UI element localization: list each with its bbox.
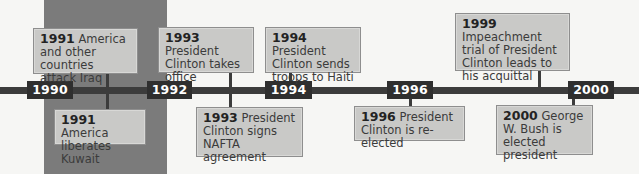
event-year: 1994 [272, 30, 307, 45]
event-box-1994-haiti: 1994 President Clinton sends troops to H… [265, 27, 361, 73]
event-text: President Clinton sends troops to Haiti [272, 44, 354, 84]
event-box-1996-reelected: 1996 President Clinton is re-elected [354, 106, 465, 141]
year-tag-2000: 2000 [568, 81, 614, 99]
event-year: 1991 [61, 112, 96, 127]
event-box-1993-nafta: 1993 President Clinton signs NAFTA agree… [196, 107, 303, 157]
event-year: 1993 [203, 110, 238, 125]
event-box-1993-office: 1993 President Clinton takes office [158, 27, 254, 73]
connector-1999 [538, 70, 541, 88]
event-box-1991-kuwait: 1991 America liberates Kuwait [54, 109, 146, 145]
event-year: 1999 [462, 16, 497, 31]
event-box-2000-bush: 2000 George W. Bush is elected president [496, 105, 593, 155]
event-box-1991-iraq: 1991 America and other countries attack … [33, 28, 138, 74]
event-year: 2000 [503, 108, 538, 123]
year-tag-1996: 1996 [387, 81, 433, 99]
event-year: 1996 [361, 109, 396, 124]
event-year: 1993 [165, 30, 200, 45]
connector-1993-above [229, 73, 232, 109]
event-box-1999-impeachment: 1999 Impeachment trial of President Clin… [455, 13, 570, 71]
event-year: 1991 [40, 31, 75, 46]
connector-1991 [106, 73, 109, 109]
timeline-axis [0, 87, 639, 94]
event-text: Impeachment trial of President Clinton l… [462, 30, 557, 83]
